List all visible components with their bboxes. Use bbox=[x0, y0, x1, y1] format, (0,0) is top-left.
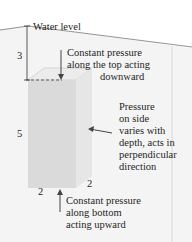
side-annotation-line-6: direction bbox=[119, 161, 156, 173]
side-annotation-line-4: depth, acts in bbox=[119, 137, 175, 149]
side-width-label: 2 bbox=[87, 178, 92, 189]
bottom-annotation-line-1: Constant pressure bbox=[66, 195, 141, 207]
depth-label: 3 bbox=[17, 50, 22, 61]
top-annotation-line-2: along the top acting bbox=[67, 59, 150, 71]
front-width-label: 2 bbox=[38, 186, 43, 197]
box-front-face bbox=[28, 80, 76, 188]
bottom-annotation-line-2: along bottom bbox=[66, 207, 122, 219]
side-annotation-line-3: varies with bbox=[119, 125, 165, 137]
side-annotation-line-2: on side bbox=[119, 113, 149, 125]
top-annotation-line-3: downward bbox=[100, 71, 144, 83]
height-label: 5 bbox=[17, 128, 22, 139]
box-side-face bbox=[76, 68, 92, 188]
pressure-diagram: Water level 3 5 2 2 Constant pressure al… bbox=[0, 0, 192, 242]
side-annotation-line-1: Pressure bbox=[119, 101, 155, 113]
bottom-annotation-line-3: acting upward bbox=[66, 219, 126, 231]
water-level-label: Water level bbox=[33, 21, 81, 33]
side-annotation-line-5: perpendicular bbox=[119, 149, 177, 161]
top-annotation-line-1: Constant pressure bbox=[67, 47, 142, 59]
